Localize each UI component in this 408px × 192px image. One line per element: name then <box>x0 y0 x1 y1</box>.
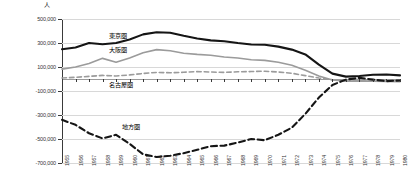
series-label-1: 大阪圏 <box>109 47 127 53</box>
x-tick-label: 1979 <box>389 155 395 166</box>
series-label-3: 地方圏 <box>122 124 140 130</box>
x-tick <box>170 79 171 82</box>
x-tick-label: 1958 <box>105 155 111 166</box>
x-tick <box>76 79 77 82</box>
x-tick-label: 1964 <box>186 155 192 166</box>
x-tick-label: 1961 <box>145 155 151 166</box>
x-tick <box>359 79 360 82</box>
x-tick-label: 1968 <box>240 155 246 166</box>
y-tick-label: 300,000 <box>37 40 56 46</box>
x-tick-label: 1965 <box>199 155 205 166</box>
x-tick <box>224 79 225 82</box>
plot-area <box>62 19 400 163</box>
y-tick-label: -300,000 <box>36 112 56 118</box>
x-tick-label: 1955 <box>64 155 70 166</box>
x-tick <box>103 79 104 82</box>
x-tick <box>89 79 90 82</box>
x-tick <box>143 79 144 82</box>
series-label-0: 東京圏 <box>109 33 127 39</box>
y-tick-label: 100,000 <box>37 64 56 70</box>
x-tick <box>292 79 293 82</box>
x-tick <box>211 79 212 82</box>
x-tick-label: 1971 <box>281 155 287 166</box>
x-tick <box>305 79 306 82</box>
x-tick-label: 1976 <box>348 155 354 166</box>
x-tick-label: 1966 <box>213 155 219 166</box>
x-tick <box>400 79 401 82</box>
x-tick-label: 1960 <box>132 155 138 166</box>
x-tick <box>319 79 320 82</box>
x-tick-label: 1974 <box>321 155 327 166</box>
x-tick <box>278 79 279 82</box>
x-tick-label: 1973 <box>308 155 314 166</box>
y-tick-label: -500,000 <box>36 136 56 142</box>
x-tick-label: 1970 <box>267 155 273 166</box>
x-tick <box>62 79 63 82</box>
x-tick-label: 1977 <box>362 155 368 166</box>
x-tick <box>332 79 333 82</box>
x-tick <box>251 79 252 82</box>
series-lines <box>62 19 400 163</box>
x-tick-label: 1980 <box>402 155 408 166</box>
x-tick <box>184 79 185 82</box>
series-line-3 <box>62 78 400 157</box>
x-tick <box>373 79 374 82</box>
x-tick-label: 1963 <box>172 155 178 166</box>
x-tick <box>238 79 239 82</box>
x-tick-label: 1957 <box>91 155 97 166</box>
x-tick-label: 1972 <box>294 155 300 166</box>
x-tick <box>346 79 347 82</box>
y-axis-unit-label: 人 <box>44 0 50 9</box>
series-label-2: 名古屋圏 <box>109 82 133 88</box>
x-tick-label: 1962 <box>159 155 165 166</box>
y-tick-label: -700,000 <box>36 160 56 166</box>
x-tick-label: 1978 <box>375 155 381 166</box>
x-tick <box>265 79 266 82</box>
x-tick <box>386 79 387 82</box>
x-tick <box>157 79 158 82</box>
x-tick-label: 1967 <box>226 155 232 166</box>
x-tick-label: 1969 <box>253 155 259 166</box>
x-tick-label: 1956 <box>78 155 84 166</box>
y-tick <box>58 163 62 164</box>
y-tick-label: -100,000 <box>36 88 56 94</box>
x-tick <box>197 79 198 82</box>
x-tick-label: 1975 <box>335 155 341 166</box>
y-tick-label: 500,000 <box>37 16 56 22</box>
x-tick-label: 1959 <box>118 155 124 166</box>
